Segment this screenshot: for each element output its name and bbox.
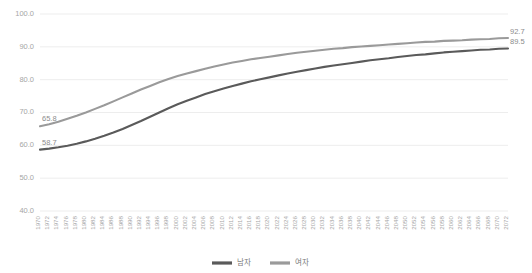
x-axis-tick-label: 2038 bbox=[346, 215, 353, 229]
x-axis-tick-label: 1978 bbox=[71, 215, 78, 229]
x-axis-tick-label: 2000 bbox=[172, 215, 179, 229]
x-axis-tick-label: 2050 bbox=[401, 215, 408, 229]
x-axis-tick-label: 2008 bbox=[208, 215, 215, 229]
x-axis-tick-label: 2018 bbox=[254, 215, 261, 229]
x-axis-tick-label: 2056 bbox=[429, 215, 436, 229]
x-axis-tick-label: 1982 bbox=[89, 215, 96, 229]
x-axis-tick-label: 2052 bbox=[410, 215, 417, 229]
x-axis-tick-label: 2054 bbox=[419, 215, 426, 229]
x-axis-tick-label: 2020 bbox=[263, 215, 270, 229]
x-axis-tick-label: 1996 bbox=[153, 215, 160, 229]
gridlines bbox=[40, 14, 508, 211]
x-axis-tick-label: 2046 bbox=[383, 215, 390, 229]
x-axis-tick-label: 2042 bbox=[364, 215, 371, 229]
x-axis-tick-label: 2012 bbox=[227, 215, 234, 229]
start-value-label-남자: 58.7 bbox=[42, 138, 57, 147]
x-axis-tick-label: 2036 bbox=[337, 215, 344, 229]
start-value-label-여자: 65.8 bbox=[42, 114, 57, 123]
y-axis-tick-label: 80.0 bbox=[19, 75, 34, 84]
x-axis-tick-label: 2022 bbox=[273, 215, 280, 229]
y-axis-tick-label: 40.0 bbox=[19, 206, 34, 215]
x-axis-tick-label: 1974 bbox=[52, 215, 59, 229]
line-chart: 100.090.080.070.060.050.040.0 1970197219… bbox=[0, 0, 532, 273]
y-axis-tick-label: 70.0 bbox=[19, 107, 34, 116]
x-axis-tick-label: 2016 bbox=[245, 215, 252, 229]
x-axis-tick-label: 2062 bbox=[456, 215, 463, 229]
x-axis-tick-label: 2004 bbox=[190, 215, 197, 229]
x-axis-tick-label: 2068 bbox=[484, 215, 491, 229]
series-line-여자 bbox=[40, 38, 508, 126]
x-axis-tick-label: 2028 bbox=[300, 215, 307, 229]
end-value-label-남자: 89.5 bbox=[510, 37, 525, 46]
chart-canvas: 100.090.080.070.060.050.040.0 1970197219… bbox=[0, 0, 532, 273]
x-axis-tick-label: 2060 bbox=[447, 215, 454, 229]
x-axis-tick-label: 2024 bbox=[282, 215, 289, 229]
x-axis-tick-label: 2070 bbox=[493, 215, 500, 229]
x-axis-tick-label: 1972 bbox=[43, 215, 50, 229]
x-axis-tick-label: 2014 bbox=[236, 215, 243, 229]
x-axis-tick-label: 2072 bbox=[502, 215, 509, 229]
y-axis-tick-labels: 100.090.080.070.060.050.040.0 bbox=[15, 9, 34, 215]
x-axis-tick-label: 1992 bbox=[135, 215, 142, 229]
legend-label[interactable]: 남자 bbox=[237, 258, 251, 267]
x-axis-tick-label: 2066 bbox=[474, 215, 481, 229]
y-axis-tick-label: 60.0 bbox=[19, 140, 34, 149]
x-axis-tick-label: 2010 bbox=[218, 215, 225, 229]
x-axis-tick-label: 2006 bbox=[199, 215, 206, 229]
x-axis-tick-label: 1998 bbox=[162, 215, 169, 229]
x-axis-tick-label: 2040 bbox=[355, 215, 362, 229]
x-axis-tick-labels: 1970197219741976197819801982198419861988… bbox=[34, 215, 509, 229]
end-value-label-여자: 92.7 bbox=[510, 27, 525, 36]
x-axis-tick-label: 1980 bbox=[80, 215, 87, 229]
x-axis-tick-label: 2026 bbox=[291, 215, 298, 229]
x-axis-tick-label: 1976 bbox=[62, 215, 69, 229]
series-lines bbox=[40, 38, 508, 150]
x-axis-tick-label: 1994 bbox=[144, 215, 151, 229]
series-line-남자 bbox=[40, 48, 508, 149]
chart-legend: 남자여자 bbox=[212, 257, 309, 267]
x-axis-tick-label: 2048 bbox=[392, 215, 399, 229]
legend-label[interactable]: 여자 bbox=[295, 257, 309, 267]
y-axis-tick-label: 90.0 bbox=[19, 42, 34, 51]
x-axis-tick-label: 2064 bbox=[465, 215, 472, 229]
x-axis-tick-label: 2002 bbox=[181, 215, 188, 229]
x-axis-tick-label: 1984 bbox=[98, 215, 105, 229]
x-axis-tick-label: 1990 bbox=[126, 215, 133, 229]
x-axis-tick-label: 2034 bbox=[328, 215, 335, 229]
data-point-labels: 65.892.758.789.5 bbox=[42, 27, 525, 147]
x-axis-tick-label: 2058 bbox=[438, 215, 445, 229]
x-axis-tick-label: 2030 bbox=[309, 215, 316, 229]
x-axis-tick-label: 1988 bbox=[117, 215, 124, 229]
y-axis-tick-label: 100.0 bbox=[15, 9, 34, 18]
y-axis-tick-label: 50.0 bbox=[19, 173, 34, 182]
x-axis-tick-label: 2044 bbox=[374, 215, 381, 229]
x-axis-tick-label: 1970 bbox=[34, 215, 41, 229]
x-axis-tick-label: 1986 bbox=[107, 215, 114, 229]
x-axis-tick-label: 2032 bbox=[318, 215, 325, 229]
